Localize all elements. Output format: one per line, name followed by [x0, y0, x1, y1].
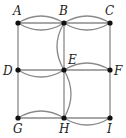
node-G: [15, 115, 20, 120]
node-label-C: C: [105, 4, 114, 18]
node-B: [61, 20, 66, 25]
node-label-A: A: [12, 4, 22, 18]
edge-E-H-curve-right: [64, 70, 71, 118]
node-label-E: E: [67, 53, 77, 67]
graph-diagram: ABCDEFGHI: [0, 0, 126, 138]
node-label-H: H: [58, 122, 70, 136]
edge-H-I-curve-down: [64, 118, 110, 125]
node-E: [61, 67, 66, 72]
node-H: [61, 115, 66, 120]
node-I: [107, 115, 112, 120]
edge-B-C-curve-up: [64, 16, 110, 23]
edge-G-H-curve-up: [18, 111, 64, 118]
node-label-F: F: [113, 64, 123, 78]
node-C: [107, 20, 112, 25]
edge-B-C-curve-down: [64, 23, 110, 30]
node-A: [15, 20, 20, 25]
node-label-D: D: [2, 64, 13, 78]
node-label-B: B: [58, 4, 68, 18]
node-F: [107, 67, 112, 72]
edge-B-E-curve-left: [57, 23, 64, 70]
edge-A-B-curve-down: [18, 23, 64, 30]
node-label-G: G: [13, 122, 23, 136]
node-label-I: I: [106, 122, 112, 136]
edge-D-E-curve-down: [18, 70, 64, 77]
node-D: [15, 67, 20, 72]
edge-A-B-curve-up: [18, 16, 64, 23]
